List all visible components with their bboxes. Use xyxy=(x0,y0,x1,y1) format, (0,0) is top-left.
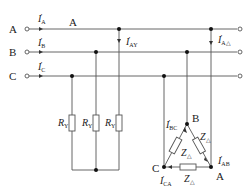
impedance-label-bc: Z△ xyxy=(181,148,192,159)
delta-node-a: A xyxy=(216,171,224,182)
current-ib: ·IB xyxy=(38,38,45,49)
delta-node-c: C xyxy=(152,163,159,174)
delta-node-b: B xyxy=(192,113,199,124)
resistor-label-1: RY xyxy=(58,118,68,129)
current-iay: ·IAY xyxy=(126,37,137,48)
impedance-label-ab: Z△ xyxy=(200,132,211,143)
current-ia-delta: ·IA△ xyxy=(218,35,231,46)
circuit-wiring xyxy=(0,0,250,196)
line-label-b: B xyxy=(9,47,16,58)
line-label-c: C xyxy=(9,71,16,82)
current-iab: ·IAB xyxy=(218,156,230,167)
current-ia: ·IA xyxy=(38,14,46,25)
current-ic: ·IC xyxy=(38,62,45,73)
resistor-label-3: RY xyxy=(105,118,115,129)
impedance-label-ca: Z△ xyxy=(184,174,195,185)
resistor-label-2: RY xyxy=(82,118,92,129)
top-label-a: A xyxy=(69,17,77,28)
current-ica: ·ICA xyxy=(160,176,172,187)
current-ibc: ·IBC xyxy=(166,120,177,131)
line-label-a: A xyxy=(9,24,17,35)
